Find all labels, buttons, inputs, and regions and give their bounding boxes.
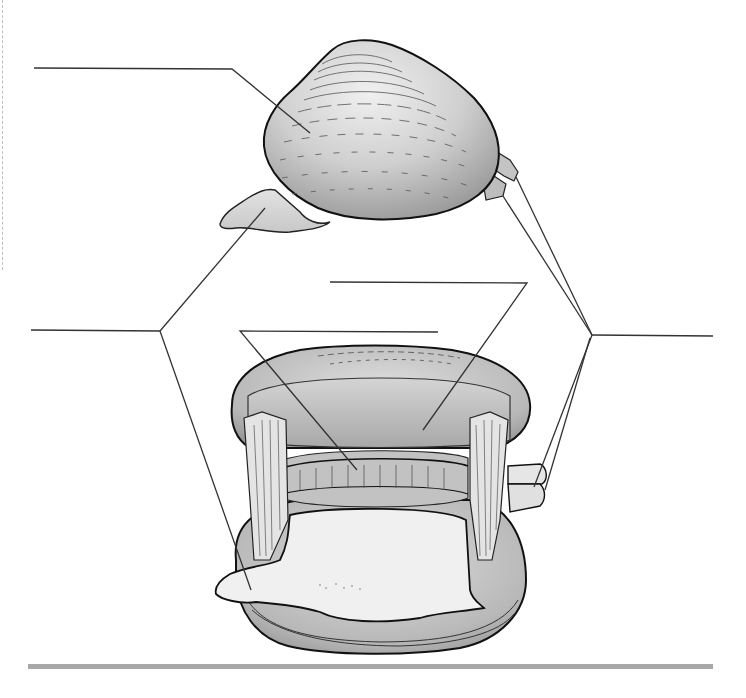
label-1-text[interactable] — [34, 52, 232, 66]
internal-siphon-lower — [508, 484, 545, 512]
internal-siphon-upper — [508, 464, 546, 484]
footer-rule — [28, 664, 713, 669]
label-5-text[interactable] — [592, 319, 713, 333]
clam-anatomy-diagram — [0, 0, 746, 698]
label-2-text[interactable] — [31, 314, 160, 328]
internal-clam — [216, 346, 547, 654]
external-shell — [264, 40, 499, 219]
label-2-leader — [31, 330, 160, 331]
label-5-leader — [592, 335, 713, 336]
external-clam — [220, 40, 518, 232]
diagram-artwork — [0, 0, 746, 698]
label-3-text[interactable] — [330, 266, 527, 280]
label-4-text[interactable] — [240, 315, 438, 329]
